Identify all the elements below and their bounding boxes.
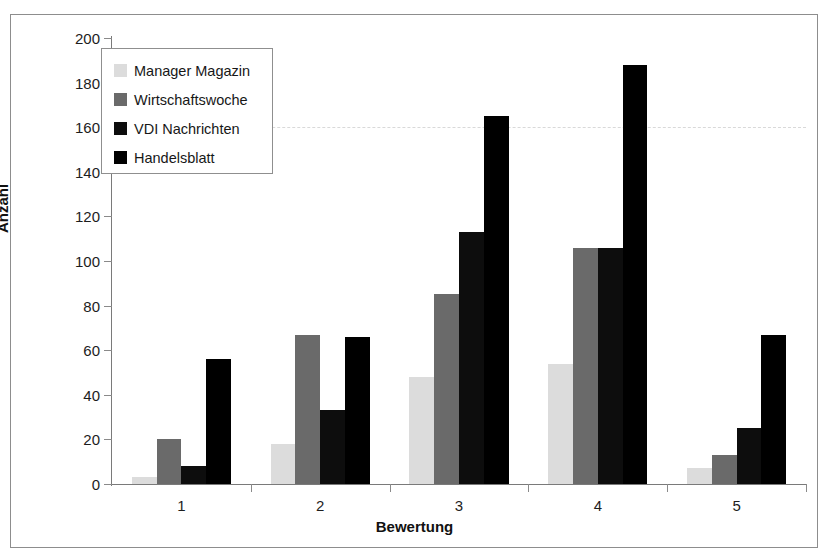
legend-swatch-icon <box>114 122 127 135</box>
y-axis-tick-labels: 020406080100120140160180200 <box>22 0 100 560</box>
bar <box>598 248 623 484</box>
y-axis-tick <box>104 484 112 485</box>
x-axis-title: Bewertung <box>0 518 829 535</box>
legend-item[interactable]: Handelsblatt <box>114 143 272 172</box>
legend: Manager MagazinWirtschaftswocheVDI Nachr… <box>101 48 273 174</box>
bar <box>459 232 484 484</box>
legend-item[interactable]: Wirtschaftswoche <box>114 85 272 114</box>
y-axis-title: Anzahl <box>0 184 11 233</box>
legend-swatch-icon <box>114 93 127 106</box>
legend-label: Handelsblatt <box>134 150 215 166</box>
legend-label: Manager Magazin <box>134 63 250 79</box>
bar <box>295 335 320 484</box>
y-axis-tick <box>104 261 112 262</box>
y-axis-tick-label: 80 <box>42 297 100 314</box>
y-axis-tick-label: 140 <box>42 163 100 180</box>
x-axis-tick-label: 5 <box>707 497 767 514</box>
bar <box>737 428 762 484</box>
bar <box>573 248 598 484</box>
bar <box>712 455 737 484</box>
x-axis-line <box>111 484 807 485</box>
bar <box>548 364 573 484</box>
bar <box>157 439 182 484</box>
legend-swatch-icon <box>114 64 127 77</box>
y-axis-tick-label: 20 <box>42 431 100 448</box>
bar <box>320 410 345 484</box>
y-axis-tick-label: 200 <box>42 30 100 47</box>
bar <box>434 294 459 484</box>
legend-label: Wirtschaftswoche <box>134 92 248 108</box>
x-axis-tick-label: 1 <box>151 497 211 514</box>
legend-swatch-icon <box>114 151 127 164</box>
bar <box>484 116 509 484</box>
chart-figure: 020406080100120140160180200 12345 Anzahl… <box>0 0 829 560</box>
y-axis-tick-label: 60 <box>42 342 100 359</box>
bar <box>687 468 712 484</box>
bar <box>132 477 157 484</box>
bar <box>271 444 296 484</box>
x-axis-tick-label: 4 <box>568 497 628 514</box>
y-axis-tick <box>104 306 112 307</box>
y-axis-tick <box>104 439 112 440</box>
x-axis-tick-label: 3 <box>429 497 489 514</box>
bar <box>409 377 434 484</box>
x-axis-tick <box>528 484 529 492</box>
y-axis-tick <box>104 216 112 217</box>
legend-item[interactable]: Manager Magazin <box>114 56 272 85</box>
x-axis-tick <box>390 484 391 492</box>
bar <box>623 65 648 484</box>
x-axis-tick-label: 2 <box>290 497 350 514</box>
bar <box>761 335 786 484</box>
x-axis-tick <box>667 484 668 492</box>
bar <box>345 337 370 484</box>
y-axis-tick-label: 160 <box>42 119 100 136</box>
y-axis-tick <box>104 350 112 351</box>
bar <box>206 359 231 484</box>
y-axis-tick-label: 0 <box>42 476 100 493</box>
y-axis-tick-label: 40 <box>42 386 100 403</box>
y-axis-tick <box>104 38 112 39</box>
y-axis-tick-label: 120 <box>42 208 100 225</box>
x-axis-tick <box>806 484 807 492</box>
y-axis-tick-label: 100 <box>42 253 100 270</box>
bar <box>181 466 206 484</box>
y-axis-tick <box>104 395 112 396</box>
legend-item[interactable]: VDI Nachrichten <box>114 114 272 143</box>
y-axis-tick-label: 180 <box>42 74 100 91</box>
legend-label: VDI Nachrichten <box>134 121 240 137</box>
x-axis-tick <box>251 484 252 492</box>
